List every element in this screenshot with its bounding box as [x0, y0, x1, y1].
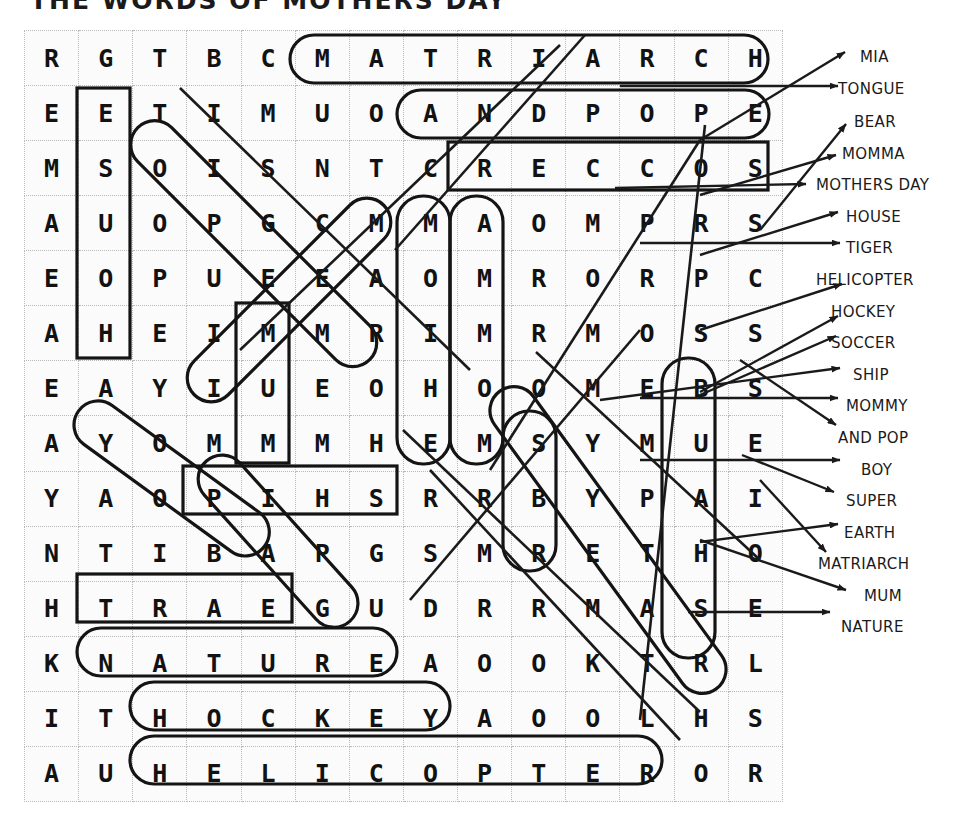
- grid-cell[interactable]: C: [403, 141, 457, 196]
- grid-cell[interactable]: P: [620, 471, 674, 526]
- grid-cell[interactable]: E: [728, 581, 782, 636]
- grid-cell[interactable]: B: [187, 526, 241, 581]
- grid-cell[interactable]: R: [295, 636, 349, 691]
- grid-cell[interactable]: R: [458, 471, 512, 526]
- grid-cell[interactable]: O: [79, 251, 133, 306]
- grid-cell[interactable]: I: [512, 31, 566, 86]
- grid-cell[interactable]: S: [674, 581, 728, 636]
- grid-cell[interactable]: O: [674, 746, 728, 801]
- grid-cell[interactable]: M: [458, 251, 512, 306]
- grid-cell[interactable]: D: [403, 581, 457, 636]
- grid-cell[interactable]: P: [187, 471, 241, 526]
- grid-cell[interactable]: U: [187, 251, 241, 306]
- grid-cell[interactable]: O: [349, 86, 403, 141]
- grid-cell[interactable]: C: [295, 196, 349, 251]
- grid-cell[interactable]: E: [512, 141, 566, 196]
- grid-cell[interactable]: E: [79, 86, 133, 141]
- grid-cell[interactable]: S: [512, 416, 566, 471]
- grid-cell[interactable]: E: [187, 746, 241, 801]
- grid-cell[interactable]: I: [728, 471, 782, 526]
- grid-cell[interactable]: R: [458, 141, 512, 196]
- grid-cell[interactable]: C: [241, 691, 295, 746]
- grid-cell[interactable]: O: [349, 361, 403, 416]
- grid-cell[interactable]: M: [295, 416, 349, 471]
- grid-cell[interactable]: B: [674, 361, 728, 416]
- grid-cell[interactable]: A: [566, 31, 620, 86]
- word-list-item[interactable]: MOMMA: [842, 147, 905, 162]
- word-list-item[interactable]: MATRIARCH: [818, 557, 909, 572]
- grid-cell[interactable]: M: [458, 416, 512, 471]
- grid-cell[interactable]: E: [25, 86, 79, 141]
- grid-cell[interactable]: O: [566, 251, 620, 306]
- word-list-item[interactable]: EARTH: [844, 526, 896, 541]
- grid-cell[interactable]: U: [241, 636, 295, 691]
- grid-cell[interactable]: R: [25, 31, 79, 86]
- grid-cell[interactable]: R: [458, 31, 512, 86]
- grid-cell[interactable]: E: [566, 526, 620, 581]
- grid-cell[interactable]: A: [458, 691, 512, 746]
- grid-cell[interactable]: L: [620, 691, 674, 746]
- grid-cell[interactable]: U: [295, 86, 349, 141]
- grid-cell[interactable]: M: [25, 141, 79, 196]
- grid-cell[interactable]: E: [241, 581, 295, 636]
- grid-cell[interactable]: E: [241, 251, 295, 306]
- grid-cell[interactable]: R: [674, 636, 728, 691]
- grid-cell[interactable]: E: [728, 416, 782, 471]
- grid-cell[interactable]: T: [79, 691, 133, 746]
- grid-cell[interactable]: E: [25, 361, 79, 416]
- grid-cell[interactable]: E: [349, 691, 403, 746]
- grid-cell[interactable]: S: [403, 526, 457, 581]
- grid-cell[interactable]: B: [512, 471, 566, 526]
- grid-cell[interactable]: N: [25, 526, 79, 581]
- grid-cell[interactable]: P: [295, 526, 349, 581]
- grid-cell[interactable]: H: [133, 746, 187, 801]
- grid-cell[interactable]: S: [674, 306, 728, 361]
- puzzle-grid-container[interactable]: RGTBCMATRIARCHEETIMUOANDPOPEMSOISNTCRECC…: [24, 30, 768, 787]
- grid-cell[interactable]: E: [295, 251, 349, 306]
- grid-cell[interactable]: P: [566, 86, 620, 141]
- grid-cell[interactable]: L: [728, 636, 782, 691]
- grid-cell[interactable]: M: [295, 31, 349, 86]
- grid-cell[interactable]: Y: [79, 416, 133, 471]
- grid-cell[interactable]: S: [728, 306, 782, 361]
- grid-cell[interactable]: R: [458, 581, 512, 636]
- grid-cell[interactable]: H: [25, 581, 79, 636]
- grid-cell[interactable]: G: [79, 31, 133, 86]
- grid-cell[interactable]: O: [512, 361, 566, 416]
- grid-cell[interactable]: U: [349, 581, 403, 636]
- grid-cell[interactable]: M: [241, 86, 295, 141]
- grid-cell[interactable]: Y: [403, 691, 457, 746]
- grid-cell[interactable]: M: [566, 306, 620, 361]
- grid-cell[interactable]: M: [458, 526, 512, 581]
- grid-cell[interactable]: K: [566, 636, 620, 691]
- grid-cell[interactable]: M: [566, 196, 620, 251]
- grid-cell[interactable]: R: [620, 31, 674, 86]
- grid-cell[interactable]: A: [25, 306, 79, 361]
- grid-cell[interactable]: O: [403, 746, 457, 801]
- grid-cell[interactable]: T: [349, 141, 403, 196]
- grid-cell[interactable]: T: [403, 31, 457, 86]
- grid-cell[interactable]: A: [458, 196, 512, 251]
- grid-cell[interactable]: R: [728, 746, 782, 801]
- grid-cell[interactable]: C: [620, 141, 674, 196]
- grid-cell[interactable]: I: [241, 471, 295, 526]
- grid-cell[interactable]: E: [25, 251, 79, 306]
- grid-cell[interactable]: E: [728, 86, 782, 141]
- word-list-item[interactable]: MIA: [860, 50, 889, 65]
- grid-cell[interactable]: I: [187, 306, 241, 361]
- grid-cell[interactable]: A: [241, 526, 295, 581]
- grid-cell[interactable]: O: [512, 636, 566, 691]
- grid-cell[interactable]: E: [349, 636, 403, 691]
- grid-cell[interactable]: E: [566, 746, 620, 801]
- grid-cell[interactable]: R: [403, 471, 457, 526]
- grid-cell[interactable]: U: [79, 746, 133, 801]
- grid-cell[interactable]: I: [403, 306, 457, 361]
- grid-cell[interactable]: R: [512, 306, 566, 361]
- grid-cell[interactable]: T: [79, 581, 133, 636]
- grid-cell[interactable]: E: [403, 416, 457, 471]
- grid-cell[interactable]: M: [566, 581, 620, 636]
- grid-cell[interactable]: P: [674, 86, 728, 141]
- grid-cell[interactable]: S: [728, 141, 782, 196]
- grid-cell[interactable]: R: [512, 251, 566, 306]
- grid-cell[interactable]: O: [403, 251, 457, 306]
